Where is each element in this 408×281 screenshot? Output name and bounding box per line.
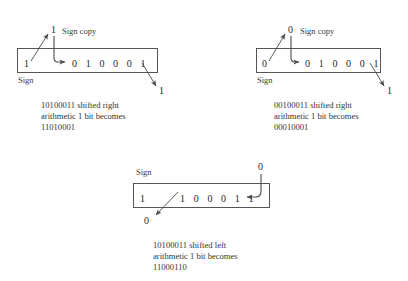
sign-bit-2: 0	[262, 59, 267, 69]
caption-line3-1: 11010001	[41, 122, 75, 133]
caption-line1-1: 10100011 shifted right	[41, 100, 119, 111]
caption-line2-2: arithmetic 1 bit becomes	[274, 111, 359, 122]
sign-copy-value-2: 0	[288, 25, 293, 35]
fill-in-bit-3: 0	[144, 216, 149, 226]
bit-row-3: 1 0 0 0 1 1	[180, 194, 257, 204]
caption-line1-3: 10100011 shifted left	[153, 240, 226, 251]
sign-bit-3: 1	[140, 194, 145, 204]
sign-bit-1: 1	[24, 59, 29, 69]
caption-line2-3: arithmetic 1 bit becomes	[153, 251, 238, 262]
caption-line3-2: 00010001	[274, 122, 308, 133]
sign-copy-label-1: Sign copy	[62, 27, 96, 36]
sign-label-3: Sign	[136, 168, 152, 177]
arrow-overlay	[0, 0, 408, 281]
bit-row-2: 0 1 0 0 0 1	[305, 59, 382, 69]
sign-copy-label-2: Sign copy	[300, 27, 334, 36]
shifted-out-bit-1: 1	[159, 86, 164, 96]
sign-label-2: Sign	[257, 76, 273, 85]
shifted-out-bit-3: 0	[258, 162, 263, 172]
sign-label-1: Sign	[18, 76, 34, 85]
bit-row-1: 0 1 0 0 0 1	[72, 59, 149, 69]
caption-line2-1: arithmetic 1 bit becomes	[41, 111, 126, 122]
caption-line3-3: 11000110	[153, 262, 187, 273]
shifted-out-bit-2: 1	[387, 86, 392, 96]
caption-line1-2: 00100011 shifted right	[274, 100, 352, 111]
sign-copy-value-1: 1	[51, 25, 56, 35]
